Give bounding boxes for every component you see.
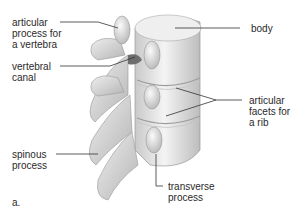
label-articular-process: articular process for a vertebra [12, 17, 61, 50]
label-transverse-process: transverse process [168, 181, 215, 203]
panel-label: a. [12, 197, 20, 208]
label-articular-facets: articular facets for a rib [249, 95, 290, 128]
label-body: body [251, 23, 273, 34]
label-spinous-process: spinous process [12, 149, 47, 171]
vertebral-body [135, 15, 201, 166]
label-vertebral-canal: vertebral canal [12, 61, 51, 83]
